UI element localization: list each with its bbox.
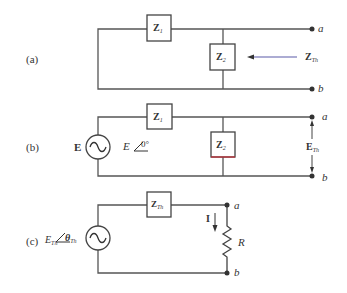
panel-c-zth-label: ZTh [151, 200, 163, 210]
panel-b-source-angle: 0° [141, 140, 149, 149]
panel-c-resistor [223, 205, 231, 273]
panel-b-eth-arrow-down [310, 167, 314, 173]
panel-a-node-a-dot [310, 27, 315, 32]
panel-b-node-a-label: a [322, 111, 328, 122]
panel-b-bottom-wire [98, 159, 312, 176]
panel-a-left-wire [98, 29, 312, 89]
panel-b-node-b-dot [310, 174, 315, 179]
panel-c-current-arrow [213, 225, 218, 232]
panel-b-source-label: E [74, 142, 81, 153]
panel-b-z2-label: Z2 [216, 140, 226, 151]
panel-c-resistor-label: R [238, 237, 245, 248]
panel-b-circuit [86, 104, 314, 176]
panel-a-node-b-label: b [318, 83, 324, 94]
panel-b-node-b-label: b [322, 172, 328, 183]
panel-c-circuit [56, 192, 231, 273]
panel-c-node-a-dot [225, 203, 230, 208]
panel-a-label: (a) [26, 54, 38, 65]
circuit-diagram [0, 0, 347, 293]
panel-a-z1-label: Z1 [153, 23, 163, 34]
panel-c-node-b-dot [225, 271, 230, 276]
panel-c-bottom-wire [98, 250, 227, 273]
panel-a-zth-arrowhead [247, 55, 254, 60]
panel-b-eth-arrow-up [310, 120, 314, 126]
panel-c-label: (c) [26, 236, 38, 247]
panel-a-node-a-label: a [318, 23, 324, 34]
panel-a-zth-label: ZTh [305, 52, 318, 63]
panel-b-label: (b) [26, 142, 39, 153]
panel-b-left-top-wire [98, 117, 147, 135]
panel-a-node-b-dot [310, 87, 315, 92]
panel-b-eth-label: ETh [306, 142, 319, 153]
panel-c-source-angle: θTh [65, 233, 77, 244]
panel-b-source-magnitude: E [123, 141, 130, 152]
panel-c-left-top-wire [98, 205, 147, 226]
panel-c-node-b-label: b [234, 267, 240, 278]
panel-c-current-label: I [206, 214, 210, 224]
panel-c-source-magnitude: ETh [45, 235, 57, 246]
panel-a-z2-label: Z2 [216, 52, 226, 63]
panel-a-circuit [98, 15, 312, 89]
panel-c-node-a-label: a [234, 200, 240, 211]
panel-b-node-a-dot [310, 115, 315, 120]
panel-b-z1-label: Z1 [153, 112, 163, 123]
